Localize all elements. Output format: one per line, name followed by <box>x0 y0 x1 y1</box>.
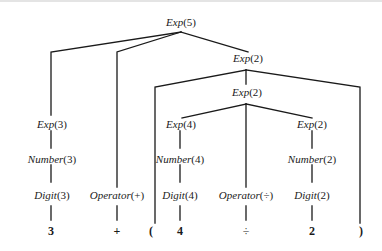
node-digit-4: Digit(4) <box>161 189 198 202</box>
node-digit-2: Digit(2) <box>293 189 330 202</box>
node-exp-right: Exp(2) <box>232 52 263 65</box>
tree-nodes: Exp(5) Exp(2) Exp(2) Exp(3) Number(3) Di… <box>27 16 337 202</box>
node-number-3: Number(3) <box>27 153 77 166</box>
leaf-left-paren: ( <box>149 224 153 238</box>
leaf-right-paren: ) <box>359 224 363 238</box>
leaf-four: 4 <box>177 224 183 238</box>
node-exp-3: Exp(3) <box>36 118 67 131</box>
edge-inner-exp4 <box>182 104 246 118</box>
node-exp-4: Exp(4) <box>165 118 196 131</box>
leaf-divide: ÷ <box>243 224 250 238</box>
node-exp-2: Exp(2) <box>296 118 327 131</box>
edge-inner-exp2 <box>246 104 312 118</box>
node-number-4: Number(4) <box>155 153 205 166</box>
edge-root-exp3 <box>51 32 181 115</box>
node-digit-3: Digit(3) <box>33 189 70 202</box>
leaf-two: 2 <box>309 224 315 238</box>
edge-root-exp-r <box>181 32 248 52</box>
parse-tree-diagram: Exp(5) Exp(2) Exp(2) Exp(3) Number(3) Di… <box>0 0 382 251</box>
node-operator-plus: Operator(+) <box>90 189 145 202</box>
tree-leaves: 3 + ( 4 ÷ 2 ) <box>48 224 363 238</box>
leaf-three: 3 <box>48 224 54 238</box>
node-exp-root: Exp(5) <box>165 16 196 29</box>
node-number-2: Number(2) <box>287 153 337 166</box>
node-exp-inner: Exp(2) <box>231 86 262 99</box>
leaf-plus: + <box>114 224 121 238</box>
node-operator-div: Operator(÷) <box>219 189 274 202</box>
